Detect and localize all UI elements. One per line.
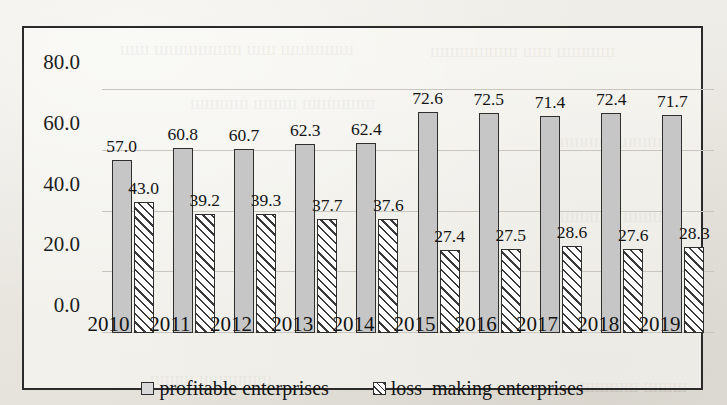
- data-label-profitable-2015: 72.6: [412, 88, 443, 109]
- data-label-loss-making-2017: 28.6: [557, 222, 588, 243]
- y-tick-label-80.0: 80.0: [18, 50, 80, 75]
- hatched-swatch: [373, 382, 386, 395]
- data-label-profitable-2012: 60.7: [229, 125, 260, 146]
- x-tick-label-2011: 2011: [149, 312, 190, 337]
- x-tick-label-2014: 2014: [332, 312, 374, 337]
- legend-label: profitable enterprises: [159, 377, 328, 400]
- data-label-loss-making-2013: 37.7: [312, 195, 343, 216]
- data-label-loss-making-2011: 39.2: [189, 190, 220, 211]
- x-tick-label-2019: 2019: [638, 312, 680, 337]
- data-label-loss-making-2019: 28.3: [679, 223, 710, 244]
- data-label-loss-making-2010: 43.0: [128, 178, 159, 199]
- y-tick-label-0.0: 0.0: [18, 293, 80, 318]
- legend-label: loss–making enterprises: [391, 377, 584, 400]
- data-label-loss-making-2015: 27.4: [434, 226, 465, 247]
- bar-profitable-2014: [356, 143, 376, 333]
- solid-gray-swatch: [141, 382, 154, 395]
- data-label-profitable-2019: 71.7: [657, 91, 688, 112]
- chart-frame: 0.020.040.060.080.0 57.043.060.839.260.7…: [22, 26, 703, 390]
- data-label-profitable-2011: 60.8: [167, 124, 198, 145]
- bar-profitable-2018: [601, 113, 621, 333]
- data-label-loss-making-2014: 37.6: [373, 195, 404, 216]
- x-tick-label-2012: 2012: [210, 312, 252, 337]
- data-label-loss-making-2016: 27.5: [495, 225, 526, 246]
- bar-profitable-2011: [173, 148, 193, 333]
- gridline-60: [102, 150, 714, 151]
- data-label-profitable-2018: 72.4: [596, 89, 627, 110]
- x-tick-label-2013: 2013: [271, 312, 313, 337]
- data-label-profitable-2016: 72.5: [473, 89, 504, 110]
- x-tick-label-2016: 2016: [455, 312, 497, 337]
- x-tick-label-2017: 2017: [516, 312, 558, 337]
- x-tick-label-2015: 2015: [394, 312, 436, 337]
- bar-profitable-2016: [479, 113, 499, 333]
- data-label-loss-making-2012: 39.3: [251, 190, 282, 211]
- data-label-profitable-2013: 62.3: [290, 120, 321, 141]
- bar-profitable-2012: [234, 149, 254, 333]
- bar-profitable-2013: [295, 144, 315, 333]
- chart-legend: profitable enterprisesloss–making enterp…: [24, 377, 701, 400]
- plot-area: 57.043.060.839.260.739.362.337.762.437.6…: [102, 90, 714, 333]
- y-tick-label-20.0: 20.0: [18, 232, 80, 257]
- y-tick-label-60.0: 60.0: [18, 110, 80, 135]
- data-label-profitable-2010: 57.0: [106, 136, 137, 157]
- data-label-profitable-2017: 71.4: [535, 92, 566, 113]
- data-label-loss-making-2018: 27.6: [618, 225, 649, 246]
- x-tick-label-2010: 2010: [88, 312, 130, 337]
- legend-item-loss-making[interactable]: loss–making enterprises: [373, 377, 584, 400]
- legend-item-profitable[interactable]: profitable enterprises: [141, 377, 328, 400]
- data-label-profitable-2014: 62.4: [351, 119, 382, 140]
- x-tick-label-2018: 2018: [577, 312, 619, 337]
- bar-loss-making-2019: [684, 247, 704, 333]
- gridline-20: [102, 271, 714, 272]
- bar-profitable-2015: [418, 112, 438, 333]
- y-tick-label-40.0: 40.0: [18, 171, 80, 196]
